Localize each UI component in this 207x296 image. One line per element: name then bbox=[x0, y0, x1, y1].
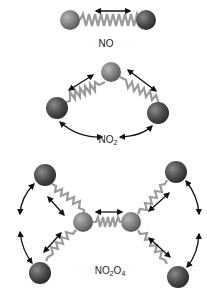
bend-arrow-icon bbox=[186, 181, 199, 214]
label-text: NO bbox=[95, 265, 110, 276]
bend-arrow-icon bbox=[20, 232, 32, 263]
bend-arrow-icon bbox=[187, 234, 199, 267]
atom-oxygen bbox=[136, 10, 156, 30]
bond-spring bbox=[93, 217, 123, 227]
stretch-arrow-icon bbox=[48, 197, 64, 215]
label-no2: NO2 bbox=[78, 134, 138, 146]
bond-spring bbox=[80, 14, 143, 26]
atom-oxygen bbox=[147, 102, 169, 124]
bend-arrow-icon bbox=[20, 184, 34, 214]
bond-spring bbox=[138, 180, 167, 214]
bond-spring-left bbox=[66, 82, 105, 102]
atom-oxygen bbox=[165, 161, 187, 183]
atom-oxygen bbox=[46, 97, 68, 119]
atom-oxygen bbox=[34, 164, 56, 186]
atom-nitrogen bbox=[73, 212, 93, 232]
label-n2o4: NO2O4 bbox=[80, 265, 140, 277]
stretch-arrow-icon bbox=[149, 238, 170, 257]
label-no: NO bbox=[76, 38, 136, 49]
bond-spring-right bbox=[120, 77, 159, 104]
atom-nitrogen bbox=[60, 10, 80, 30]
molecule-no bbox=[60, 10, 156, 30]
label-text: NO bbox=[99, 38, 114, 49]
label-subscript: 4 bbox=[121, 270, 125, 277]
atom-oxygen bbox=[167, 266, 189, 288]
atom-oxygen bbox=[29, 262, 51, 284]
atom-nitrogen bbox=[101, 62, 121, 82]
bond-spring bbox=[52, 184, 84, 215]
label-text: NO bbox=[99, 134, 114, 145]
atom-nitrogen bbox=[121, 212, 141, 232]
label-subscript: 2 bbox=[114, 139, 118, 146]
bond-spring bbox=[138, 230, 167, 264]
molecule-no2 bbox=[46, 62, 169, 137]
